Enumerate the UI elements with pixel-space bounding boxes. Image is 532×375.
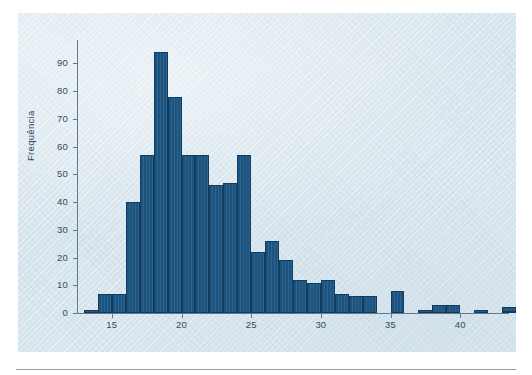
histogram-bar — [363, 296, 377, 313]
histogram-bar — [223, 183, 237, 313]
histogram-bar — [279, 260, 293, 313]
histogram-bar — [391, 291, 405, 313]
page-bottom-rule — [16, 369, 516, 370]
histogram-bar — [154, 52, 168, 313]
histogram-bar — [335, 294, 349, 313]
histogram-bar — [84, 310, 98, 313]
histogram-bar — [126, 202, 140, 313]
histogram-bar — [502, 311, 516, 313]
histogram-bar — [446, 305, 460, 313]
histogram-bar — [474, 310, 488, 313]
histogram-bar — [182, 155, 196, 313]
scanned-page: Frequência 0102030405060708090 152025303… — [0, 0, 532, 375]
histogram-bar — [112, 294, 126, 313]
histogram-bar — [98, 294, 112, 313]
histogram-bar — [349, 296, 363, 313]
histogram-bars — [18, 13, 516, 352]
figure-panel: Frequência 0102030405060708090 152025303… — [18, 13, 516, 352]
histogram-bar — [307, 283, 321, 314]
histogram-bar — [418, 310, 432, 313]
histogram-bar — [321, 280, 335, 313]
histogram-bar — [265, 241, 279, 313]
histogram-bar — [293, 280, 307, 313]
histogram-bar — [251, 252, 265, 313]
histogram-bar — [209, 185, 223, 313]
histogram-bar — [168, 97, 182, 313]
histogram-bar — [237, 155, 251, 313]
histogram-bar — [195, 155, 209, 313]
histogram-plot: Frequência 0102030405060708090 152025303… — [18, 13, 516, 352]
histogram-bar — [140, 155, 154, 313]
histogram-bar — [432, 305, 446, 313]
